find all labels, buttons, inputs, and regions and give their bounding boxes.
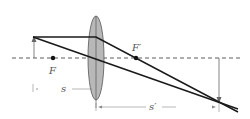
image-distance-marker	[96, 103, 219, 112]
object-distance-label: s	[61, 83, 66, 94]
dim-dot	[36, 88, 38, 90]
image-arrow	[217, 58, 222, 103]
lens-diagram: F F′ s s′	[0, 0, 250, 119]
image-distance-label: s′	[149, 101, 157, 112]
focal-label-left: F	[48, 65, 57, 76]
focal-label-right: F′	[131, 42, 142, 53]
object-arrow	[32, 36, 37, 58]
focal-point-right	[134, 56, 138, 60]
dim-arrowhead	[98, 106, 102, 109]
dim-arrowhead	[212, 106, 216, 109]
focal-point-left	[51, 56, 55, 60]
